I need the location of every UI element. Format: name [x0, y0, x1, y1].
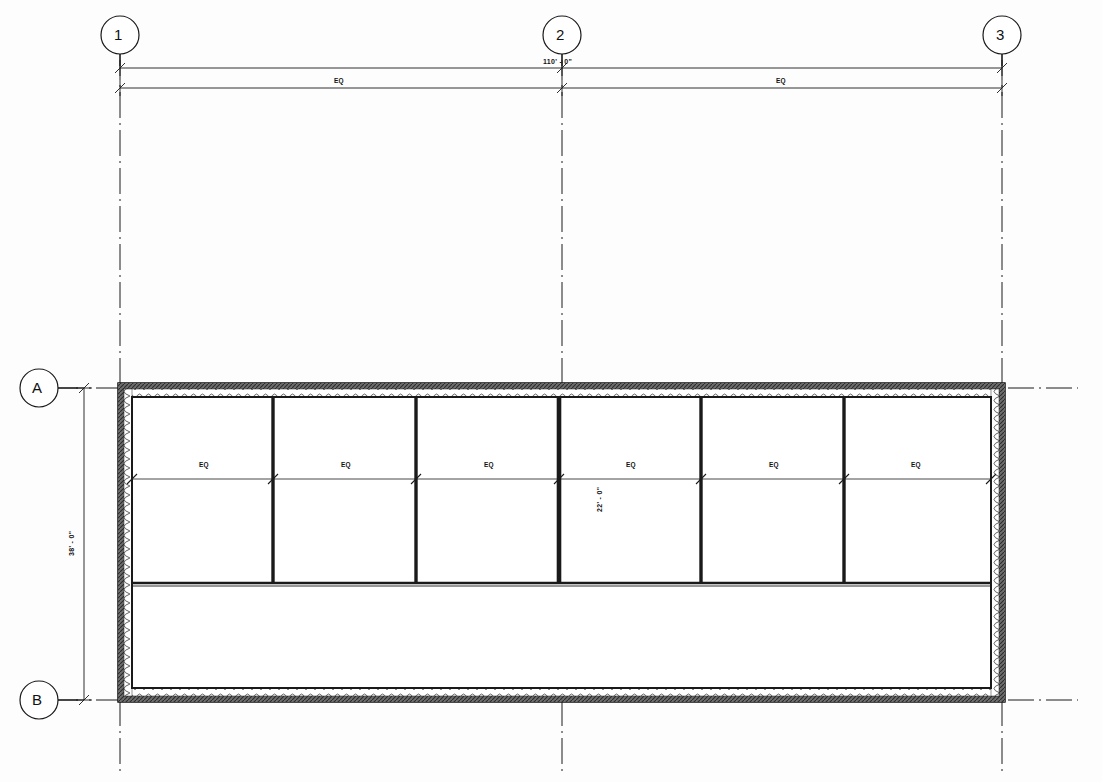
dimension-label-bay-depth: 22' - 0"	[596, 487, 603, 512]
plan-vector-canvas	[0, 0, 1102, 782]
grid-bubble-label-1: 1	[114, 27, 123, 42]
floor-plan-drawing: 1 2 3 A B 110' - 0" EQ EQ 38' - 0" 22' -…	[0, 0, 1102, 782]
dimension-label-eq-top-left: EQ	[334, 78, 344, 85]
room-label-eq-3: EQ	[484, 462, 494, 469]
grid-bubble-label-A: A	[32, 380, 42, 395]
room-label-eq-1: EQ	[199, 462, 209, 469]
room-label-eq-4: EQ	[626, 462, 636, 469]
exterior-wall-inner-face	[132, 397, 991, 688]
dimension-chain-equal-bays	[115, 80, 1007, 96]
grid-bubble-label-3: 3	[996, 27, 1005, 42]
grid-bubble-A[interactable]	[20, 369, 78, 407]
dimension-label-overall-width: 110' - 0"	[543, 58, 572, 65]
grid-bubble-label-2: 2	[556, 27, 565, 42]
dimension-chain-overall-height	[76, 383, 92, 705]
dimension-label-overall-height: 38' - 0"	[68, 531, 75, 556]
room-label-eq-5: EQ	[769, 462, 779, 469]
grid-bubble-label-B: B	[32, 692, 42, 707]
room-label-eq-2: EQ	[341, 462, 351, 469]
dimension-label-eq-top-right: EQ	[776, 78, 786, 85]
grid-bubble-B[interactable]	[20, 681, 78, 719]
room-label-eq-6: EQ	[911, 462, 921, 469]
